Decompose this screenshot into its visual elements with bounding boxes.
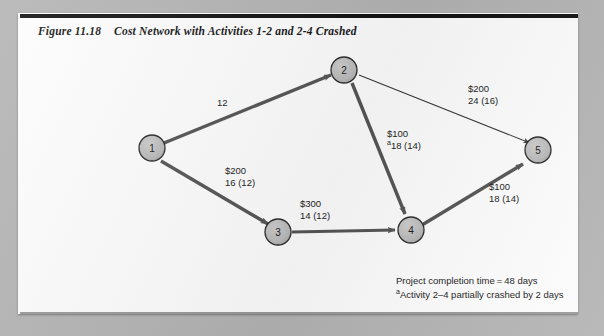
edge-label-4-5-duration: 18 (14) bbox=[489, 193, 519, 205]
network-diagram: 1 2 3 4 5 bbox=[18, 13, 578, 314]
node-3-label: 3 bbox=[275, 227, 281, 238]
edge-label-1-3: $200 16 (12) bbox=[225, 165, 255, 189]
edge-label-2-4-cost: $100 bbox=[387, 128, 421, 140]
equals-sign: = bbox=[495, 275, 505, 286]
crash-footnote: aActivity 2–4 partially crashed by 2 day… bbox=[396, 288, 564, 302]
edge-label-1-3-cost: $200 bbox=[225, 165, 255, 177]
node-5[interactable]: 5 bbox=[525, 137, 551, 163]
edge-1-2 bbox=[164, 75, 331, 143]
figure-notes: Project completion time=48 days aActivit… bbox=[396, 274, 564, 302]
edge-label-4-5: $100 18 (14) bbox=[489, 181, 519, 205]
node-1-label: 1 bbox=[149, 143, 155, 154]
node-2-label: 2 bbox=[341, 65, 347, 76]
edge-label-2-5-duration: 24 (16) bbox=[468, 95, 498, 107]
completion-time-note: Project completion time=48 days bbox=[396, 274, 564, 288]
node-5-label: 5 bbox=[535, 145, 541, 156]
edge-label-1-3-duration: 16 (12) bbox=[225, 177, 255, 189]
node-2[interactable]: 2 bbox=[331, 57, 357, 83]
edge-label-4-5-cost: $100 bbox=[489, 181, 519, 193]
edge-label-1-2: 12 bbox=[217, 97, 228, 109]
node-4[interactable]: 4 bbox=[398, 217, 424, 243]
node-3[interactable]: 3 bbox=[265, 219, 291, 245]
edge-label-2-5: $200 24 (16) bbox=[468, 83, 498, 107]
edge-label-2-4: $100 a18 (14) bbox=[387, 128, 421, 152]
completion-time-value: 48 days bbox=[504, 275, 537, 286]
edge-label-2-4-duration: a18 (14) bbox=[387, 140, 421, 152]
edge-2-5 bbox=[359, 75, 530, 143]
edge-label-2-4-duration-text: 18 (14) bbox=[391, 140, 421, 151]
edge-label-2-5-cost: $200 bbox=[468, 83, 498, 95]
node-1[interactable]: 1 bbox=[139, 135, 165, 161]
figure-page: Figure 11.18Cost Network with Activities… bbox=[0, 0, 604, 336]
edge-label-3-4-duration: 14 (12) bbox=[300, 210, 330, 222]
completion-time-prefix: Project completion time bbox=[396, 275, 495, 286]
edge-3-4 bbox=[292, 230, 395, 232]
edge-label-1-2-duration: 12 bbox=[217, 97, 228, 109]
node-4-label: 4 bbox=[408, 225, 414, 236]
edge-label-3-4-cost: $300 bbox=[300, 198, 330, 210]
footnote-text: Activity 2–4 partially crashed by 2 days bbox=[400, 289, 564, 300]
edge-label-3-4: $300 14 (12) bbox=[300, 198, 330, 222]
